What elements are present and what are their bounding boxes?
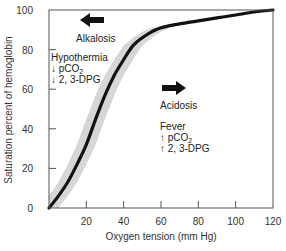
svg-text:100: 100	[16, 5, 33, 16]
left-dpg-label: ↓ 2, 3-DPG	[51, 74, 101, 85]
alkalosis-label: Alkalosis	[76, 33, 115, 44]
svg-text:100: 100	[227, 216, 244, 227]
x-axis-title: Oxygen tension (mm Hg)	[105, 231, 216, 242]
svg-text:40: 40	[118, 216, 130, 227]
right-dpg-label: ↑ 2, 3-DPG	[160, 143, 210, 154]
acidosis-label: Acidosis	[160, 100, 197, 111]
svg-text:60: 60	[22, 84, 34, 95]
svg-text:20: 20	[81, 216, 93, 227]
fever-label: Fever	[160, 121, 186, 132]
svg-text:20: 20	[22, 163, 34, 174]
svg-text:120: 120	[265, 216, 282, 227]
left-shift-arrow-icon	[80, 13, 104, 27]
y-axis-title: Saturation percent of hemoglobin	[3, 36, 14, 183]
svg-text:80: 80	[22, 45, 34, 56]
svg-text:60: 60	[155, 216, 167, 227]
svg-text:80: 80	[193, 216, 205, 227]
svg-text:0: 0	[27, 203, 33, 214]
svg-text:40: 40	[22, 124, 34, 135]
hypothermia-label: Hypothermia	[51, 52, 108, 63]
oxygen-dissociation-chart: 20406080100120020406080100 Oxygen tensio…	[0, 0, 286, 251]
right-shift-arrow-icon	[162, 81, 186, 95]
